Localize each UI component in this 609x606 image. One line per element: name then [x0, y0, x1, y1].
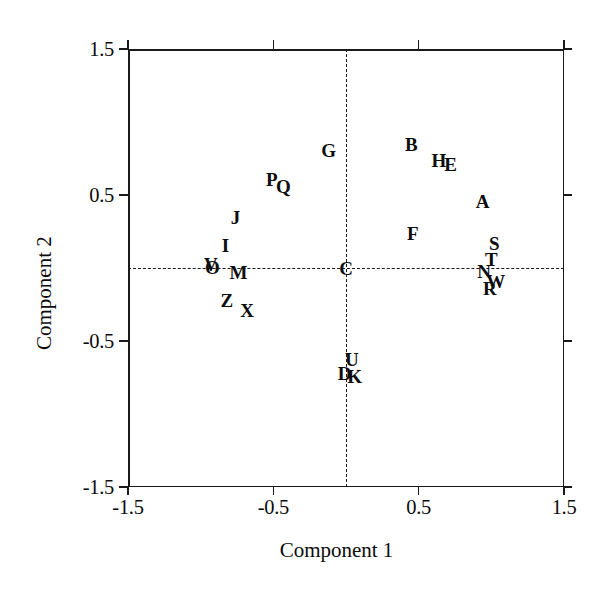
x-tick-top-2 — [418, 40, 420, 49]
y-tick-label-0: -1.5 — [83, 476, 114, 499]
y-tick-3 — [119, 48, 128, 50]
x-tick-label-0: -1.5 — [112, 496, 143, 519]
data-point-x: X — [240, 301, 254, 320]
data-point-r: R — [483, 279, 497, 298]
x-tick-2 — [418, 486, 420, 495]
data-point-m: M — [229, 263, 247, 282]
x-tick-label-2: 0.5 — [406, 496, 431, 519]
x-tick-label-1: -0.5 — [258, 496, 289, 519]
data-point-g: G — [321, 140, 336, 159]
x-axis-title-text: Component 1 — [280, 538, 394, 562]
x-tick-1 — [273, 486, 275, 495]
y-tick-1 — [119, 340, 128, 342]
data-point-k: K — [347, 367, 362, 386]
y-tick-label-1: -0.5 — [83, 330, 114, 353]
data-point-j: J — [231, 207, 241, 226]
data-point-f: F — [407, 223, 419, 242]
y-tick-0 — [119, 486, 128, 488]
y-tick-label-2: 0.5 — [89, 184, 114, 207]
data-point-z: Z — [220, 291, 233, 310]
data-point-i: I — [222, 235, 229, 254]
y-tick-2 — [119, 194, 128, 196]
x-tick-top-1 — [273, 40, 275, 49]
y-tick-label-3: 1.5 — [89, 38, 114, 61]
data-point-q: Q — [276, 177, 291, 196]
x-tick-label-3: 1.5 — [552, 496, 577, 519]
y-tick-right-1 — [563, 340, 572, 342]
data-point-b: B — [405, 134, 418, 153]
y-tick-right-0 — [563, 486, 572, 488]
data-point-o: O — [205, 257, 220, 276]
data-point-a: A — [476, 191, 490, 210]
scatter-plot-figure: GBHEPQJAIFSTVOCNWMRZXUDK -1.5-0.50.51.5 … — [0, 0, 609, 606]
y-tick-right-3 — [563, 48, 572, 50]
data-point-e: E — [444, 155, 457, 174]
x-axis-title: Component 1 — [0, 538, 609, 563]
y-tick-right-2 — [563, 194, 572, 196]
data-point-c: C — [339, 259, 353, 278]
y-axis-title: Component 2 — [32, 236, 57, 350]
plot-area: GBHEPQJAIFSTVOCNWMRZXUDK — [128, 49, 564, 487]
